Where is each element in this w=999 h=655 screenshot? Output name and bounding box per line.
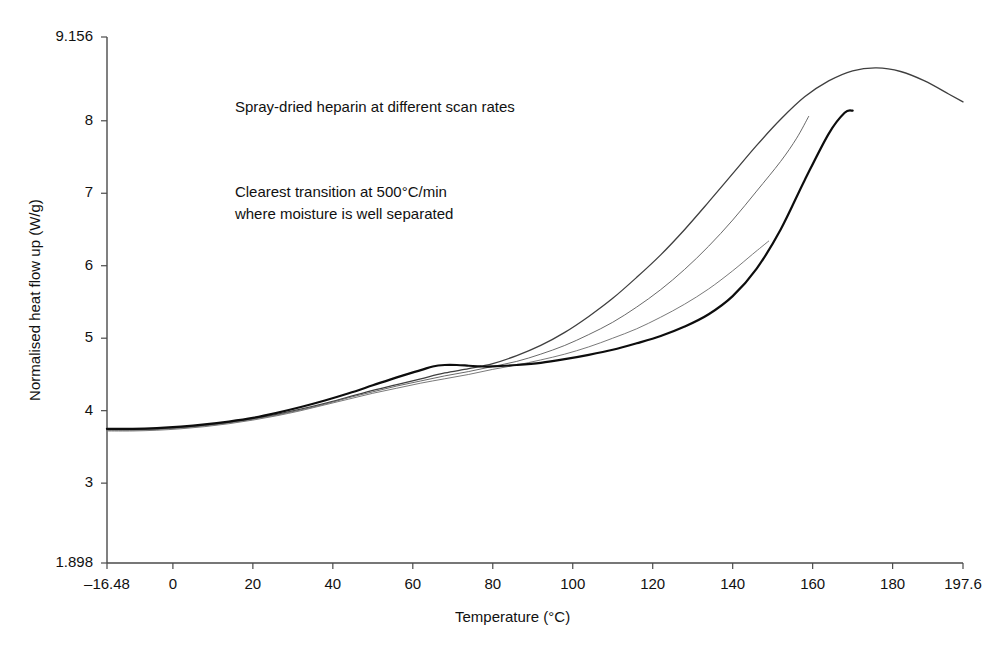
y-axis-title: Normalised heat flow up (W/g) [26,199,43,401]
y-tick-label: 9.156 [0,27,93,44]
y-tick-label: 5 [0,328,93,345]
y-tick-label: 8 [0,111,93,128]
x-axis-title: Temperature (°C) [455,608,570,625]
scan-rate-curve-2 [107,116,809,430]
y-tick-label: 6 [0,256,93,273]
y-tick-label: 4 [0,401,93,418]
annotation-note-line1: Clearest transition at 500°C/min [235,181,447,203]
y-tick-marks [101,37,107,563]
chart-figure: 1.8983456789.156 –16.4802040608010012014… [0,0,999,655]
annotation-note-line2: where moisture is well separated [235,203,453,225]
scan-rate-curve-3 [107,241,769,431]
data-series-group [107,68,963,431]
y-tick-label: 7 [0,183,93,200]
scan-rate-curve-1 [107,68,963,430]
scan-rate-curve-4 [107,110,853,428]
y-tick-label: 1.898 [0,553,93,570]
x-tick-label: 197.6 [913,575,999,592]
y-tick-label: 3 [0,473,93,490]
x-tick-marks [107,563,963,569]
annotation-title: Spray-dried heparin at different scan ra… [235,96,515,118]
